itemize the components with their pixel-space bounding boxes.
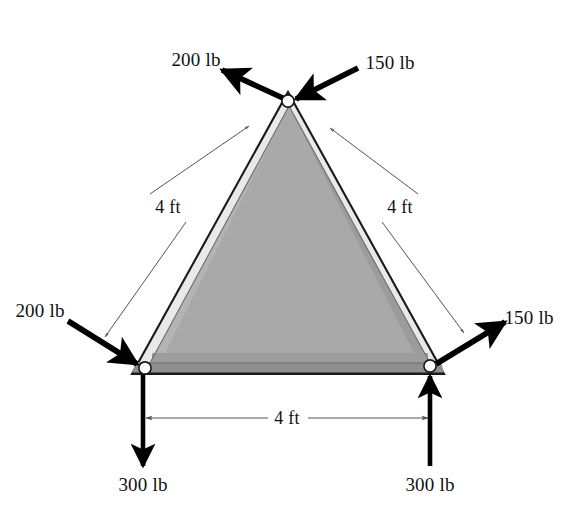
bottom-left-vertical-force-label: 300 lb	[118, 475, 167, 494]
apex-right-force-arrow	[296, 68, 358, 99]
bottom-left-diagonal-force-label: 200 lb	[15, 301, 64, 320]
bottom-right-diagonal-force-label: 150 lb	[504, 308, 553, 327]
bottom-left-joint	[139, 362, 151, 374]
apex-right-force-label: 150 lb	[365, 53, 414, 72]
bottom-member-band	[132, 362, 444, 373]
apex-joint	[282, 95, 294, 107]
bottom-member-dimension-label: 4 ft	[274, 409, 299, 427]
left-dimension-upper-segment	[150, 126, 249, 194]
inner-bottom-shade	[152, 353, 428, 363]
apex-left-force-arrow	[222, 70, 285, 99]
truss-diagram-svg	[0, 0, 571, 520]
bottom-right-joint	[424, 360, 436, 372]
bottom-left-diagonal-force-arrow	[68, 321, 137, 364]
right-dimension-upper-segment	[330, 128, 418, 194]
bottom-right-vertical-force-label: 300 lb	[405, 475, 454, 494]
right-member-dimension-label: 4 ft	[387, 198, 412, 216]
apex-left-force-label: 200 lb	[171, 50, 220, 69]
figure-canvas: 200 lb 150 lb 200 lb 150 lb 300 lb 300 l…	[0, 0, 571, 520]
bottom-right-diagonal-force-arrow	[436, 322, 505, 364]
truss-inner-fill	[150, 106, 430, 363]
left-member-dimension-label: 4 ft	[155, 198, 180, 216]
